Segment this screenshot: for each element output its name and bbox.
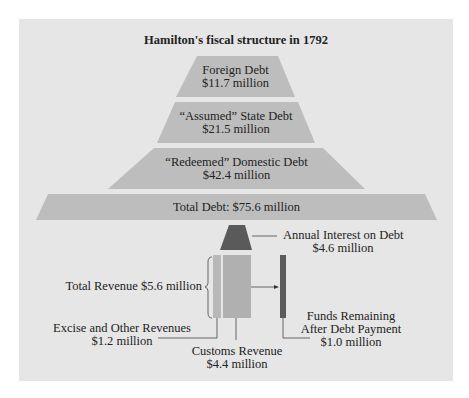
redeemed-debt-value: $42.4 million <box>108 169 365 182</box>
diagram-title: Hamilton's fiscal structure in 1792 <box>19 34 453 47</box>
interest-value: $4.6 million <box>283 242 403 255</box>
revenue-brace <box>205 257 212 318</box>
excise-bar <box>213 255 221 318</box>
customs-bar <box>223 255 251 318</box>
foreign-debt-value: $11.7 million <box>176 77 295 90</box>
interest-trapezoid <box>220 225 252 250</box>
excise-label: Excise and Other Revenues $1.2 million <box>52 322 192 348</box>
customs-value: $4.4 million <box>190 358 284 371</box>
total-debt-label: Total Debt: $75.6 million <box>36 201 437 214</box>
foreign-debt-label: Foreign Debt $11.7 million <box>176 64 295 90</box>
assumed-debt-value: $21.5 million <box>157 123 315 136</box>
arrow-head-icon <box>274 285 279 289</box>
excise-value: $1.2 million <box>52 335 192 348</box>
total-revenue-label: Total Revenue $5.6 million <box>40 280 202 293</box>
funds-remaining-value: $1.0 million <box>296 336 406 349</box>
funds-remaining-bar <box>280 255 286 318</box>
funds-remaining-label: Funds Remaining After Debt Payment $1.0 … <box>296 310 406 349</box>
interest-label: Annual Interest on Debt $4.6 million <box>283 229 403 255</box>
redeemed-debt-label: “Redeemed” Domestic Debt $42.4 million <box>108 156 365 182</box>
assumed-debt-label: “Assumed” State Debt $21.5 million <box>157 110 315 136</box>
customs-label: Customs Revenue $4.4 million <box>190 345 284 371</box>
